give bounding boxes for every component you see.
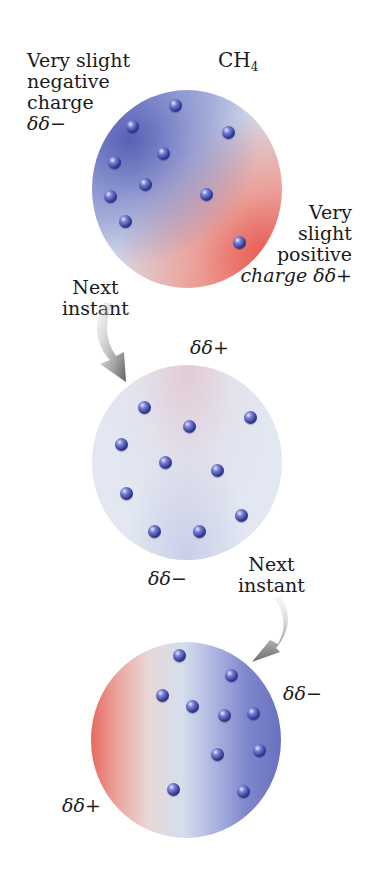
electron <box>186 700 199 713</box>
electron <box>247 707 260 720</box>
negative-charge-label-right: δδ− <box>283 683 322 704</box>
electron <box>173 649 186 662</box>
electron <box>167 783 180 796</box>
electron <box>253 744 266 757</box>
electron <box>211 748 224 761</box>
molecule-next-instant-2 <box>91 642 281 838</box>
electron <box>218 709 231 722</box>
electron <box>237 785 250 798</box>
electron <box>156 689 169 702</box>
positive-charge-label-left: δδ+ <box>62 795 101 816</box>
electron <box>225 669 238 682</box>
